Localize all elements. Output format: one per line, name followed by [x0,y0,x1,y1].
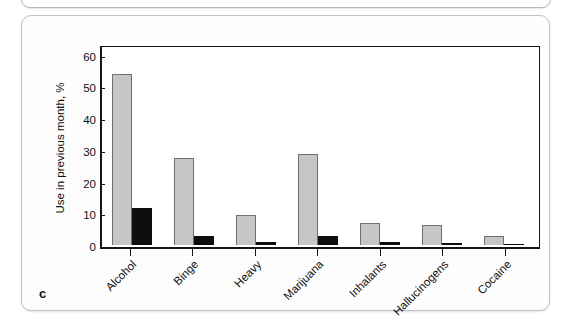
x-tick-label: Inhalants [347,258,388,299]
bars-layer [104,48,538,245]
x-tick-mark [255,249,256,256]
bar-series-1 [112,74,132,245]
y-tick-label: 50 [83,82,100,94]
plot-area [100,46,540,249]
bar-series-2 [504,244,524,246]
x-tick-label: Marijuana [282,258,326,302]
clipped-top-panel [21,0,551,8]
bar-series-2 [442,243,462,245]
bar-group [290,48,352,245]
y-axis-title-label: Use in previous month, % [54,82,66,213]
figure-screenshot: Use in previous month, % 0102030405060 A… [0,0,566,326]
y-tick-mark [100,152,105,153]
bar-group [104,48,166,245]
y-tick-label: 30 [83,145,100,157]
x-tick-label: Hallucinogens [391,258,451,318]
x-tick-mark [317,249,318,256]
x-tick-label: Alcohol [103,258,138,293]
bar-series-2 [132,208,152,245]
panel-letter: c [39,286,46,301]
bar-series-1 [174,158,194,245]
bar-group [352,48,414,245]
x-tick-mark [505,249,506,256]
x-tick-mark [130,249,131,256]
bar-series-2 [256,242,276,245]
figure-panel: Use in previous month, % 0102030405060 A… [21,15,550,311]
y-tick-label: 60 [83,50,100,62]
bar-series-1 [484,236,504,245]
y-tick-mark [100,57,105,58]
plot-wrap: 0102030405060 [100,46,540,249]
y-tick-label: 20 [83,177,100,189]
bar-group [166,48,228,245]
bar-group [414,48,476,245]
bar-series-1 [298,154,318,245]
y-axis-ticks: 0102030405060 [66,46,100,249]
y-tick-mark [100,247,105,248]
y-tick-label: 40 [83,114,100,126]
y-tick-mark [100,120,105,121]
bar-series-1 [360,223,380,245]
y-tick-label: 0 [90,241,100,253]
y-tick-label: 10 [83,209,100,221]
bar-group [476,48,538,245]
y-tick-mark [100,88,105,89]
y-tick-mark [100,184,105,185]
bar-group [228,48,290,245]
bar-series-1 [422,225,442,245]
x-tick-label: Heavy [232,258,264,290]
x-tick-mark [192,249,193,256]
bar-series-1 [236,215,256,245]
x-tick-mark [380,249,381,256]
x-tick-label: Cocaine [475,258,513,296]
bar-series-2 [194,236,214,245]
bar-series-2 [380,242,400,245]
bar-series-2 [318,236,338,245]
x-tick-label: Binge [172,258,201,287]
x-tick-mark [442,249,443,256]
x-axis-categories: AlcoholBingeHeavyMarijuanaInhalantsHallu… [100,249,540,319]
y-tick-mark [100,215,105,216]
